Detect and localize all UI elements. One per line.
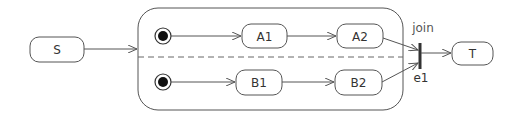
- state-a1: A1: [242, 24, 287, 48]
- join-event-label: e1: [413, 71, 428, 85]
- state-b2-label: B2: [351, 76, 367, 90]
- state-a2-label: A2: [352, 30, 368, 44]
- state-b2: B2: [335, 70, 382, 95]
- state-s-label: S: [53, 43, 61, 57]
- initial-state-a: [155, 28, 171, 44]
- join-bar: [419, 43, 422, 69]
- state-t: T: [452, 42, 493, 65]
- state-b1: B1: [236, 70, 282, 95]
- state-t-label: T: [468, 47, 477, 61]
- state-b1-label: B1: [251, 76, 267, 90]
- state-a1-label: A1: [257, 30, 273, 44]
- join-label: join: [411, 21, 434, 35]
- initial-state-b: [155, 74, 171, 90]
- state-s: S: [30, 37, 84, 62]
- state-diagram: S A1 A2 B1 B2 join e1: [0, 0, 519, 118]
- state-a2: A2: [337, 24, 383, 48]
